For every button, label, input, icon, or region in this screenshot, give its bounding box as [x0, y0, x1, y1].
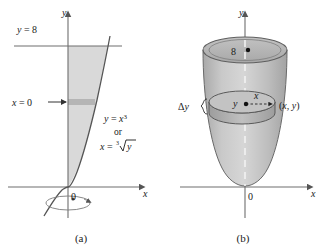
radical-index: 3: [116, 140, 119, 146]
panel-b: Δy y x (x, y) 8 y x 0 (b): [162, 0, 324, 248]
origin-label: 0: [71, 191, 76, 202]
panel-a-graph: y = 8 x = 0 y = x3 or x =: [0, 0, 162, 230]
y-axis-label: y: [238, 7, 244, 18]
label-curve-eq-or: or: [114, 127, 123, 137]
panel-b-graph: Δy y x (x, y) 8 y x 0: [162, 0, 324, 230]
label-curve-equation: y = x3 or x = 3 y: [99, 113, 136, 153]
panel-a: y = 8 x = 0 y = x3 or x =: [0, 0, 162, 248]
label-y-equals-8: y = 8: [16, 24, 37, 35]
label-top-value-8: 8: [231, 46, 236, 57]
radicand: y: [126, 141, 132, 152]
cube-root-radical-icon: 3 y: [116, 140, 136, 152]
label-x-radius: x: [253, 90, 259, 101]
label-x-equals-0-group: x = 0: [11, 97, 66, 108]
panel-a-caption: (a): [0, 232, 162, 244]
top-point-dot-icon: [246, 48, 250, 52]
label-delta-y: Δy: [178, 101, 189, 112]
x-axis-label: x: [142, 188, 148, 199]
origin-label: 0: [248, 191, 253, 202]
representative-strip: [68, 99, 95, 105]
panel-b-caption: (b): [162, 232, 324, 244]
label-point-xy: (x, y): [279, 100, 300, 112]
shaded-region: [68, 46, 108, 187]
label-curve-eq-line1: y = x3: [103, 113, 128, 125]
disk-top-face: [209, 91, 275, 113]
label-x-equals-0: x = 0: [11, 97, 32, 108]
disk-center-dot-icon: [244, 102, 248, 106]
x-axis-label: x: [310, 188, 316, 199]
representative-disk: [209, 91, 275, 124]
label-curve-eq-line3: x =: [99, 141, 113, 152]
label-y-center: y: [232, 98, 238, 109]
figure-container: y = 8 x = 0 y = x3 or x =: [0, 0, 324, 248]
y-axis-label: y: [61, 7, 67, 18]
